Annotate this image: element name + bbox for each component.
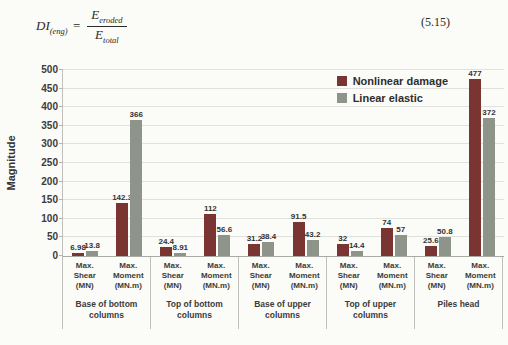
category-sub-label: Max. Shear (MN)	[239, 261, 283, 294]
bar-column: 32	[337, 234, 349, 256]
category-group: Max. Shear (MN)Max. Moment (MN.m)Top of …	[327, 257, 415, 329]
bar-column: 366	[130, 110, 142, 256]
category-sub-label: Max. Moment (MN.m)	[283, 261, 327, 294]
bar	[130, 120, 142, 256]
y-tick-label: 350	[41, 121, 58, 131]
equation-lhs-base: DI	[36, 18, 50, 33]
y-tick-label: 500	[41, 65, 58, 75]
y-tick-label: 250	[41, 158, 58, 168]
bar-value-label: 14.4	[349, 241, 365, 250]
page: DI(eng) = Eeroded Etotal (5.15) Magnitud…	[0, 0, 508, 345]
bar-group: 31.238.491.543.2	[239, 70, 327, 256]
category-group: Max. Shear (MN)Max. Moment (MN.m)Base of…	[239, 257, 327, 329]
category-sub-label: Max. Moment (MN.m)	[107, 261, 151, 294]
bar	[483, 118, 495, 256]
y-tick-label: 200	[41, 177, 58, 187]
bar	[160, 247, 172, 256]
bar-column: 31.2	[248, 234, 260, 256]
category-sub-label: Max. Shear (MN)	[151, 261, 195, 294]
legend: Nonlinear damage Linear elastic	[337, 75, 448, 104]
bar-pair: 142.3366	[107, 70, 151, 256]
category-sub-row: Max. Shear (MN)Max. Moment (MN.m)	[327, 261, 414, 294]
bar	[293, 222, 305, 256]
equation-denominator: Etotal	[95, 27, 119, 45]
y-tick-label: 0	[52, 251, 58, 261]
bar-column: 142.3	[116, 193, 128, 256]
legend-label-linear: Linear elastic	[353, 92, 423, 104]
legend-swatch-nonlinear-icon	[337, 76, 347, 86]
equation-numerator-base: E	[91, 7, 99, 22]
bar	[425, 246, 437, 256]
equation-equals-sign: =	[71, 18, 80, 33]
bar-column: 477	[469, 69, 481, 256]
bar-value-label: 50.8	[437, 227, 453, 236]
bar-column: 24.4	[160, 237, 172, 256]
bar-pair: 31.238.4	[239, 70, 283, 256]
equation-numerator: Eeroded	[87, 8, 126, 27]
category-sub-label: Max. Moment (MN.m)	[195, 261, 239, 294]
bar-pair: 91.543.2	[284, 70, 328, 256]
category-group-label: Base of bottom columns	[63, 299, 150, 320]
category-sub-row: Max. Shear (MN)Max. Moment (MN.m)	[63, 261, 150, 294]
plot-area: 6.9813.8142.336624.48.9111256.631.238.49…	[62, 70, 504, 257]
bar-pair: 477372	[460, 70, 504, 256]
bar-value-label: 142.3	[112, 193, 132, 202]
bar-value-label: 13.8	[84, 241, 100, 250]
bar-pair: 11256.6	[195, 70, 239, 256]
equation-lhs-subscript: (eng)	[50, 26, 68, 36]
category-group-label: Base of upper columns	[239, 299, 326, 320]
bar	[469, 79, 481, 256]
category-group: Max. Shear (MN)Max. Moment (MN.m)Base of…	[62, 257, 151, 329]
bar	[116, 203, 128, 256]
bar	[72, 253, 84, 256]
bar-group: 6.9813.8142.3366	[63, 70, 151, 256]
equation-numerator-subscript: eroded	[99, 15, 122, 25]
bar-column: 57	[395, 225, 407, 256]
bar-column: 25.6	[425, 236, 437, 256]
bar-value-label: 366	[129, 110, 142, 119]
y-axis-labels: 050100150200250300350400450500	[20, 70, 58, 256]
y-tick-label: 300	[41, 139, 58, 149]
bar-value-label: 43.2	[305, 230, 321, 239]
bar-column: 372	[483, 108, 495, 256]
bar-column: 91.5	[293, 212, 305, 256]
bar	[381, 228, 393, 256]
bar-value-label: 477	[468, 69, 481, 78]
bar-column: 6.98	[72, 243, 84, 256]
bar-value-label: 25.6	[423, 236, 439, 245]
bar	[204, 214, 216, 256]
bar	[337, 244, 349, 256]
category-group: Max. Shear (MN)Max. Moment (MN.m)Piles h…	[415, 257, 503, 329]
category-group-label: Top of bottom columns	[151, 299, 238, 320]
bar	[248, 244, 260, 256]
category-sub-label: Max. Moment (MN.m)	[371, 261, 415, 294]
category-sub-row: Max. Shear (MN)Max. Moment (MN.m)	[415, 261, 502, 294]
bar	[351, 251, 363, 256]
bar-value-label: 74	[382, 218, 391, 227]
y-tick-label: 400	[41, 102, 58, 112]
category-sub-label: Max. Moment (MN.m)	[459, 261, 503, 294]
bar	[174, 253, 186, 256]
equation: DI(eng) = Eeroded Etotal	[36, 8, 127, 46]
category-group-label: Top of upper columns	[327, 299, 414, 320]
bar-column: 13.8	[86, 241, 98, 256]
category-sub-label: Max. Shear (MN)	[415, 261, 459, 294]
legend-swatch-linear-icon	[337, 93, 347, 103]
x-axis: Max. Shear (MN)Max. Moment (MN.m)Base of…	[62, 257, 503, 329]
bar-group: 24.48.9111256.6	[151, 70, 239, 256]
bar-column: 112	[204, 204, 216, 256]
bar-value-label: 91.5	[291, 212, 307, 221]
bar-value-label: 372	[482, 108, 495, 117]
y-tick-label: 150	[41, 195, 58, 205]
bar-value-label: 56.6	[217, 225, 233, 234]
equation-fraction: Eeroded Etotal	[87, 8, 126, 46]
bar	[218, 235, 230, 256]
equation-denominator-subscript: total	[103, 35, 119, 45]
legend-label-nonlinear: Nonlinear damage	[353, 75, 448, 87]
bar-column: 56.6	[218, 225, 230, 256]
category-sub-row: Max. Shear (MN)Max. Moment (MN.m)	[239, 261, 326, 294]
y-axis-title: Magnitude	[5, 136, 17, 191]
bar-value-label: 112	[204, 204, 217, 213]
bar-column: 8.91	[174, 243, 186, 256]
bar	[307, 240, 319, 256]
